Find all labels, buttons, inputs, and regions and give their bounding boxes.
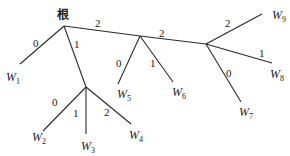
leaf-subscript: 4 <box>139 135 143 144</box>
leaf-label-w1: W1 <box>6 70 20 86</box>
leaf-label-w2: W2 <box>32 130 46 146</box>
root-label: 根 <box>57 7 69 22</box>
tree-edge <box>64 26 86 87</box>
edge-label: 2 <box>104 106 110 118</box>
edge-label: 0 <box>226 67 232 79</box>
leaf-subscript: 1 <box>16 77 20 86</box>
edge-label: 1 <box>73 107 79 119</box>
edge-label: 2 <box>159 27 165 39</box>
leaf-subscript: 3 <box>91 146 95 155</box>
edge-label: 1 <box>150 57 156 69</box>
leaf-subscript: 5 <box>127 94 131 103</box>
leaf-subscript: 7 <box>249 112 253 121</box>
tree-svg: 012012012210根W1W2W3W4W5W6W7W8W9 <box>0 0 290 156</box>
tree-edge <box>20 26 64 64</box>
edge-label: 2 <box>225 17 231 29</box>
leaf-label-w4: W4 <box>129 128 143 144</box>
leaf-label-w7: W7 <box>239 105 253 121</box>
tree-edge <box>140 36 206 44</box>
leaf-subscript: 9 <box>282 15 286 24</box>
edge-label: 2 <box>95 17 101 29</box>
leaf-label-w8: W8 <box>270 67 284 83</box>
edge-label: 0 <box>116 57 122 69</box>
tree-edge <box>64 26 140 36</box>
leaf-subscript: 6 <box>182 92 186 101</box>
leaf-label-w9: W9 <box>272 8 286 24</box>
leaf-subscript: 8 <box>280 74 284 83</box>
leaf-label-w3: W3 <box>81 139 95 155</box>
tree-diagram: 012012012210根W1W2W3W4W5W6W7W8W9 <box>0 0 290 156</box>
edge-label: 1 <box>74 38 80 50</box>
edge-label: 1 <box>259 47 265 59</box>
leaf-label-w5: W5 <box>117 87 131 103</box>
edge-label: 0 <box>33 37 39 49</box>
leaf-label-w6: W6 <box>172 85 186 101</box>
edge-label: 0 <box>52 96 58 108</box>
tree-edge <box>140 36 173 82</box>
tree-edge <box>206 14 262 44</box>
leaf-subscript: 2 <box>42 137 46 146</box>
tree-edge <box>43 87 86 131</box>
